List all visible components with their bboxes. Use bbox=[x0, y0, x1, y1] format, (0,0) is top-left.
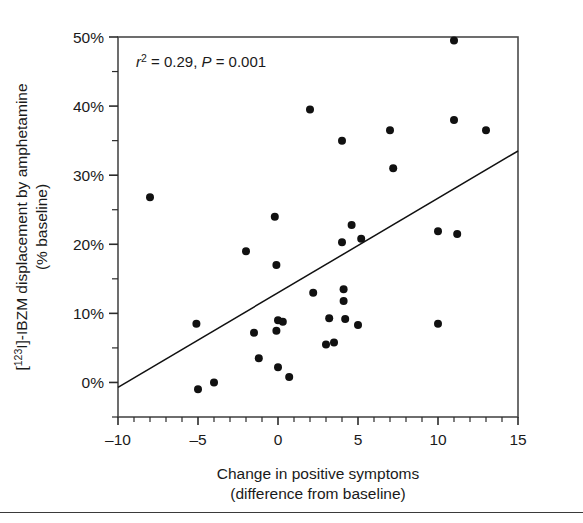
data-point bbox=[210, 378, 218, 386]
data-point bbox=[194, 385, 202, 393]
data-point bbox=[453, 230, 461, 238]
stats-annotation: r2 = 0.29, P = 0.001 bbox=[136, 52, 266, 70]
scatter-chart: –10–50510150%10%20%30%40%50%r2 = 0.29, P… bbox=[0, 0, 583, 523]
data-point bbox=[272, 327, 280, 335]
x-axis-tick-label: 10 bbox=[429, 431, 447, 448]
data-point bbox=[242, 247, 250, 255]
data-point bbox=[450, 36, 458, 44]
data-point bbox=[348, 221, 356, 229]
y-axis-tick-label: 10% bbox=[73, 305, 104, 322]
data-point bbox=[338, 137, 346, 145]
data-point bbox=[255, 354, 263, 362]
data-point bbox=[309, 289, 317, 297]
y-axis-tick-label: 0% bbox=[82, 374, 105, 391]
data-point bbox=[434, 227, 442, 235]
y-axis-tick-label: 20% bbox=[73, 236, 104, 253]
x-axis-tick-label: 15 bbox=[509, 431, 526, 448]
data-point bbox=[306, 106, 314, 114]
data-point bbox=[274, 363, 282, 371]
data-point bbox=[482, 126, 490, 134]
data-point bbox=[250, 329, 258, 337]
data-point bbox=[330, 338, 338, 346]
data-point bbox=[338, 238, 346, 246]
data-point bbox=[389, 164, 397, 172]
y-axis-tick-label: 50% bbox=[73, 29, 104, 46]
regression-line bbox=[118, 151, 518, 387]
plot-frame bbox=[118, 37, 518, 417]
data-point bbox=[434, 320, 442, 328]
data-point bbox=[340, 297, 348, 305]
data-point bbox=[341, 315, 349, 323]
data-point bbox=[357, 235, 365, 243]
x-axis-tick-label: 5 bbox=[354, 431, 363, 448]
figure-container: –10–50510150%10%20%30%40%50%r2 = 0.29, P… bbox=[0, 0, 583, 523]
x-axis-tick-label: –5 bbox=[189, 431, 206, 448]
data-point bbox=[450, 116, 458, 124]
data-point bbox=[285, 373, 293, 381]
y-axis-tick-label: 30% bbox=[73, 167, 104, 184]
y-axis-tick-label: 40% bbox=[73, 98, 104, 115]
p-value: = 0.001 bbox=[211, 53, 266, 70]
data-point bbox=[192, 320, 200, 328]
p-symbol: P bbox=[201, 53, 211, 70]
data-point bbox=[146, 193, 154, 201]
x-axis-title: Change in positive symptoms bbox=[217, 465, 420, 482]
y-axis-title-superscript: 123 bbox=[12, 349, 24, 367]
x-axis-title-line2: (difference from baseline) bbox=[230, 485, 405, 502]
y-axis-title-suffix: I]-IBZM displacement by amphetamine bbox=[13, 83, 30, 348]
y-axis-title-line2: (% baseline) bbox=[33, 184, 50, 270]
x-axis-tick-label: –10 bbox=[105, 431, 131, 448]
data-point bbox=[386, 126, 394, 134]
data-point bbox=[322, 340, 330, 348]
data-point bbox=[340, 285, 348, 293]
footer-divider bbox=[0, 512, 583, 513]
data-point bbox=[325, 314, 333, 322]
y-axis-title: [123I]-IBZM displacement by amphetamine bbox=[12, 83, 30, 370]
data-point bbox=[272, 261, 280, 269]
data-point bbox=[271, 213, 279, 221]
r-value: = 0.29, bbox=[147, 53, 202, 70]
data-point bbox=[354, 321, 362, 329]
data-point bbox=[279, 318, 287, 326]
x-axis-tick-label: 0 bbox=[274, 431, 283, 448]
